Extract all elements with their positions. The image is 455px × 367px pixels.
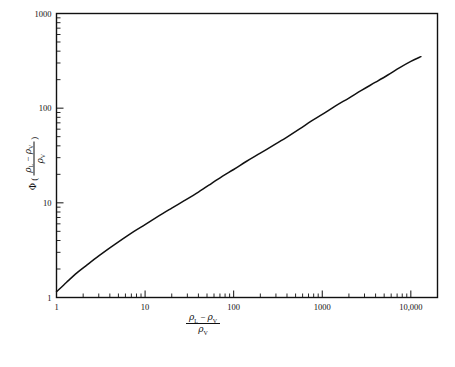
x-axis-label-numerator: ρL − ρV	[186, 313, 220, 324]
rho-l-subscript-y: L	[28, 164, 34, 168]
y-axis-label-fraction: ρL − ρV ρV	[24, 142, 45, 176]
y-axis-label-numerator: ρL − ρV	[24, 142, 35, 176]
chart-figure: 110100100010,000 1101001000 ρL − ρV ρV Φ…	[0, 0, 455, 367]
rho-l-symbol-y: ρ	[23, 168, 33, 173]
chart-svg: 110100100010,000 1101001000	[0, 0, 455, 367]
y-axis-label: Φ( ρL − ρV ρV )	[24, 83, 45, 243]
x-axis-label-denominator: ρV	[186, 324, 220, 334]
x-axis-label-fraction: ρL − ρV ρV	[186, 313, 220, 334]
plot-frame	[57, 14, 438, 298]
rho-v-subscript: V	[213, 318, 217, 324]
x-axis-label: ρL − ρV ρV	[186, 313, 220, 334]
x-tick-label: 1000	[314, 302, 331, 312]
phi-symbol: Φ	[28, 183, 38, 190]
rho-v-subscript-y: V	[28, 145, 34, 149]
rho-v-subscript-denominator: V	[204, 330, 208, 336]
x-tick-label: 1	[54, 302, 58, 312]
rho-v-symbol-y: ρ	[23, 149, 33, 154]
x-axis-minor-ticks	[83, 294, 437, 298]
x-tick-label: 100	[227, 302, 240, 312]
open-paren: (	[28, 176, 38, 183]
minus-sign: −	[200, 312, 205, 322]
close-paren: )	[28, 135, 38, 142]
x-tick-label: 10	[141, 302, 150, 312]
x-tick-label: 10,000	[399, 302, 422, 312]
minus-sign-y: −	[23, 157, 33, 162]
y-axis-major-ticks	[57, 14, 64, 298]
x-axis-tick-labels: 110100100010,000	[54, 302, 422, 312]
rho-v-symbol-y-denominator: ρ	[35, 158, 45, 163]
rho-v-subscript-y-denominator: V	[40, 154, 46, 158]
y-tick-label: 1000	[35, 9, 52, 19]
y-tick-label: 1	[47, 293, 51, 303]
rho-l-subscript: L	[194, 318, 198, 324]
data-series-line	[57, 57, 421, 292]
y-axis-label-denominator: ρV	[35, 142, 45, 176]
